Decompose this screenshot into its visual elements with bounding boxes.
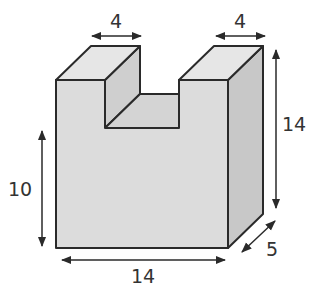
block-diagram: 4 4 14 10 14 5 [0, 0, 321, 308]
label-total-height: 14 [282, 113, 306, 135]
label-total-width: 14 [131, 265, 155, 287]
label-right-width: 4 [234, 10, 246, 32]
label-notch-height: 10 [8, 178, 32, 200]
label-left-width: 4 [110, 10, 122, 32]
label-depth: 5 [266, 238, 278, 260]
right-side-face [228, 46, 263, 248]
